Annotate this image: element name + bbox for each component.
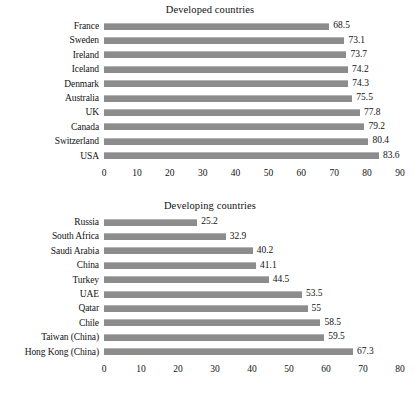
bar-track: 73.1 <box>104 33 420 47</box>
bar-row: Canada79.2 <box>0 120 420 134</box>
bar-row: Ireland73.7 <box>0 48 420 62</box>
bar-row: Saudi Arabia40.2 <box>0 244 420 258</box>
value-label: 73.1 <box>348 36 365 46</box>
bar-track: 68.5 <box>104 19 420 33</box>
bar-track: 75.5 <box>104 91 420 105</box>
chart-developed-countries: Developed countries France68.5Sweden73.1… <box>0 0 420 196</box>
bar-row: South Africa32.9 <box>0 229 420 243</box>
x-axis-tick-label: 30 <box>198 167 208 179</box>
bar <box>104 219 197 226</box>
bar-row: USA83.6 <box>0 149 420 163</box>
value-label: 74.3 <box>352 79 369 89</box>
bar-row: UK77.8 <box>0 105 420 119</box>
bar-rows: France68.5Sweden73.1Ireland73.7Iceland74… <box>0 19 420 163</box>
category-label: USA <box>0 149 104 163</box>
bar <box>104 319 320 326</box>
value-label: 79.2 <box>368 122 385 132</box>
bar-track: 73.7 <box>104 48 420 62</box>
category-label: South Africa <box>0 229 104 243</box>
bar-row: Sweden73.1 <box>0 33 420 47</box>
value-label: 55 <box>312 304 322 314</box>
bar-row: France68.5 <box>0 19 420 33</box>
category-label: Saudi Arabia <box>0 244 104 258</box>
x-axis-tick-label: 90 <box>395 167 405 179</box>
x-axis-ticks: 0102030405060708090 <box>104 165 420 181</box>
category-label: Chile <box>0 316 104 330</box>
value-label: 40.2 <box>257 246 274 256</box>
bar <box>104 138 368 145</box>
x-axis-tick-label: 60 <box>321 363 331 375</box>
category-label: Sweden <box>0 33 104 47</box>
bar-row: China41.1 <box>0 258 420 272</box>
value-label: 73.7 <box>350 50 367 60</box>
value-label: 77.8 <box>364 108 381 118</box>
bar-row: Hong Kong (China)67.3 <box>0 345 420 359</box>
chart-developing-countries: Developing countries Russia25.2South Afr… <box>0 196 420 400</box>
category-label: UAE <box>0 287 104 301</box>
bar <box>104 247 253 254</box>
value-label: 41.1 <box>260 261 277 271</box>
bar <box>104 123 364 130</box>
x-axis-tick-label: 50 <box>284 363 294 375</box>
value-label: 59.5 <box>328 332 345 342</box>
x-axis-tick-label: 20 <box>173 363 183 375</box>
chart-title: Developing countries <box>0 196 420 213</box>
value-label: 32.9 <box>230 232 247 242</box>
figure-root: Developed countries France68.5Sweden73.1… <box>0 0 420 400</box>
bar-track: 25.2 <box>104 215 420 229</box>
x-axis-tick-label: 10 <box>136 363 146 375</box>
value-label: 58.5 <box>324 318 341 328</box>
x-axis-ticks: 01020304050607080 <box>104 361 420 377</box>
bar-row: Qatar55 <box>0 301 420 315</box>
bar <box>104 66 348 73</box>
category-label: Taiwan (China) <box>0 330 104 344</box>
x-axis-tick-label: 70 <box>329 167 339 179</box>
x-axis-tick-label: 40 <box>231 167 241 179</box>
x-axis-tick-label: 60 <box>297 167 307 179</box>
bar-track: 41.1 <box>104 258 420 272</box>
value-label: 74.2 <box>352 65 369 75</box>
bar-row: Russia25.2 <box>0 215 420 229</box>
bar <box>104 37 344 44</box>
bar-track: 74.3 <box>104 77 420 91</box>
bar-track: 32.9 <box>104 229 420 243</box>
bar <box>104 152 379 159</box>
category-label: China <box>0 258 104 272</box>
value-label: 53.5 <box>306 289 323 299</box>
category-label: Iceland <box>0 62 104 76</box>
bar-rows: Russia25.2South Africa32.9Saudi Arabia40… <box>0 215 420 359</box>
bar <box>104 109 360 116</box>
category-label: Ireland <box>0 48 104 62</box>
bar-row: Chile58.5 <box>0 316 420 330</box>
bar-track: 79.2 <box>104 120 420 134</box>
category-label: Qatar <box>0 301 104 315</box>
value-label: 75.5 <box>356 93 373 103</box>
bar <box>104 51 346 58</box>
bar <box>104 334 324 341</box>
bar-row: UAE53.5 <box>0 287 420 301</box>
x-axis-tick-label: 80 <box>362 167 372 179</box>
x-axis-tick-label: 0 <box>102 167 107 179</box>
category-label: Turkey <box>0 273 104 287</box>
x-axis-tick-label: 0 <box>102 363 107 375</box>
value-label: 67.3 <box>357 347 374 357</box>
bar <box>104 348 353 355</box>
bar-track: 83.6 <box>104 149 420 163</box>
bar-track: 58.5 <box>104 316 420 330</box>
bar-row: Switzerland80.4 <box>0 134 420 148</box>
bar <box>104 276 269 283</box>
bar-row: Iceland74.2 <box>0 62 420 76</box>
bar-row: Turkey44.5 <box>0 273 420 287</box>
bar <box>104 95 352 102</box>
category-label: Canada <box>0 120 104 134</box>
value-label: 68.5 <box>333 21 350 31</box>
bar-track: 67.3 <box>104 345 420 359</box>
category-label: Hong Kong (China) <box>0 345 104 359</box>
bar-track: 44.5 <box>104 273 420 287</box>
value-label: 44.5 <box>273 275 290 285</box>
bar-track: 53.5 <box>104 287 420 301</box>
bar-track: 59.5 <box>104 330 420 344</box>
category-label: UK <box>0 105 104 119</box>
bar-track: 74.2 <box>104 62 420 76</box>
value-label: 80.4 <box>372 136 389 146</box>
